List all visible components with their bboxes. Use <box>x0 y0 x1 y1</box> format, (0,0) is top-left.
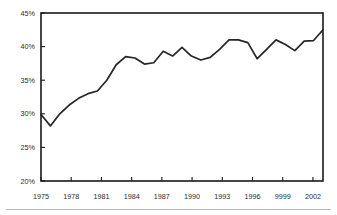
chart-background <box>0 0 337 215</box>
y-axis-tick-label: 40% <box>21 42 36 51</box>
x-axis-tick-label: 2002 <box>305 192 321 201</box>
y-axis-tick-label: 35% <box>21 76 36 85</box>
line-chart: 45%40%35%30%25%20% 197519781981198419871… <box>0 0 337 215</box>
y-axis-tick-label: 30% <box>21 109 36 118</box>
x-axis-tick-label: 9999 <box>275 192 291 201</box>
x-axis-tick-label: 1996 <box>245 192 261 201</box>
y-axis-tick-label: 25% <box>21 143 36 152</box>
x-axis-tick-label: 1981 <box>93 192 109 201</box>
x-axis-tick-label: 1987 <box>154 192 170 201</box>
x-axis-tick-label: 1990 <box>184 192 200 201</box>
y-axis-tick-label: 20% <box>21 177 36 186</box>
x-axis-tick-label: 1975 <box>33 192 49 201</box>
x-axis-tick-label: 1984 <box>124 192 140 201</box>
chart-figure: 45%40%35%30%25%20% 197519781981198419871… <box>0 0 337 215</box>
y-axis-tick-label: 45% <box>21 9 36 18</box>
x-axis-tick-label: 1978 <box>63 192 79 201</box>
x-axis-tick-label: 1993 <box>214 192 230 201</box>
